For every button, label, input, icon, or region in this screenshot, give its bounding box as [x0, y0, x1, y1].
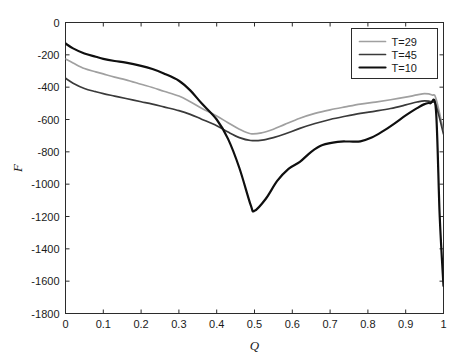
y-tick-label: -600 [37, 114, 59, 126]
chart-legend[interactable]: T=29T=45T=10 [352, 29, 438, 79]
y-tick-label: 0 [53, 17, 59, 29]
y-tick-label: -1600 [31, 275, 59, 287]
x-tick-label: 0.4 [209, 318, 224, 330]
x-tick-label: 0.6 [285, 318, 300, 330]
x-tick-label: 0.8 [360, 318, 375, 330]
y-tick-label: -1000 [31, 178, 59, 190]
x-tick-label: 0.9 [398, 318, 413, 330]
y-tick-label: -1200 [31, 211, 59, 223]
series-line-t-45 [66, 78, 444, 140]
x-tick-label: 0.7 [322, 318, 337, 330]
y-tick-label: -400 [37, 81, 59, 93]
legend-label-t-45: T=45 [392, 49, 417, 61]
legend-label-t-10: T=10 [392, 62, 417, 74]
x-tick-label: 0.5 [247, 318, 262, 330]
x-axis-title: Q [250, 338, 260, 353]
series-line-t-10 [66, 44, 444, 286]
x-tick-label: 0.2 [133, 318, 148, 330]
legend-label-t-29: T=29 [392, 36, 417, 48]
x-tick-label: 0.1 [96, 318, 111, 330]
y-tick-label: -1800 [31, 308, 59, 320]
y-tick-label: -800 [37, 146, 59, 158]
y-tick-label: -200 [37, 49, 59, 61]
y-axis-title: F [10, 163, 25, 173]
figure-container: 00.10.20.30.40.50.60.70.80.910-200-400-6… [0, 0, 467, 363]
chart-plot: 00.10.20.30.40.50.60.70.80.910-200-400-6… [0, 0, 467, 363]
series-group [66, 44, 444, 286]
x-tick-label: 0 [62, 318, 68, 330]
y-tick-label: -1400 [31, 243, 59, 255]
x-tick-label: 0.3 [171, 318, 186, 330]
x-tick-label: 1 [440, 318, 446, 330]
